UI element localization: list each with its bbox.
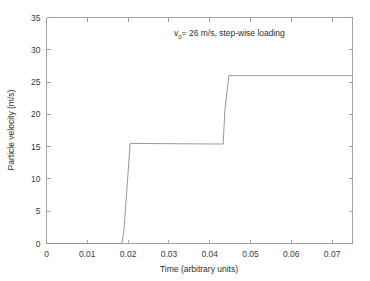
x-tick-label: 0.05 [242, 249, 259, 259]
y-tick-label: 15 [31, 142, 41, 152]
x-tick-label: 0.01 [79, 249, 96, 259]
annotation-description: = 26 m/s, step-wise loading [182, 28, 286, 38]
x-axis-title: Time (arbitrary units) [160, 264, 238, 274]
x-tick-label: 0 [44, 249, 49, 259]
x-tick-label: 0.06 [283, 249, 300, 259]
y-tick-label: 5 [36, 206, 41, 216]
x-tick-label: 0.02 [120, 249, 137, 259]
y-tick-label: 30 [31, 45, 41, 55]
y-tick-label: 20 [31, 109, 41, 119]
chart-annotation: v0= 26 m/s, step-wise loading [174, 28, 285, 40]
chart-figure: 05101520253035 00.010.020.030.040.050.06… [0, 0, 370, 281]
x-tick-label: 0.04 [201, 249, 218, 259]
chart-background [0, 0, 370, 281]
y-tick-label: 10 [31, 174, 41, 184]
y-axis-title: Particle velocity (m/s) [6, 89, 16, 170]
y-tick-label: 35 [31, 13, 41, 23]
y-tick-label: 25 [31, 77, 41, 87]
annotation-text: v0= 26 m/s, step-wise loading [174, 28, 285, 40]
x-tick-label: 0.03 [161, 249, 178, 259]
velocity-step-chart: 05101520253035 00.010.020.030.040.050.06… [0, 0, 370, 281]
x-tick-label: 0.07 [324, 249, 341, 259]
y-tick-label: 0 [36, 239, 41, 249]
